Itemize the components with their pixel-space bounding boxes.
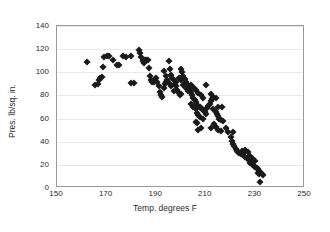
y-tick-label: 60 — [40, 113, 49, 122]
x-axis-title: Temp. degrees F — [0, 203, 330, 213]
gridline — [57, 26, 303, 27]
gridline — [57, 49, 303, 50]
x-tick-mark — [57, 186, 58, 187]
data-point — [165, 57, 172, 64]
x-tick-label: 230 — [248, 189, 261, 198]
y-axis-title: Pres. lb/sq. in. — [7, 66, 17, 156]
data-point — [202, 81, 209, 88]
gridline — [57, 119, 303, 120]
data-point — [145, 64, 152, 71]
y-tick-label: 100 — [36, 67, 49, 76]
y-tick-mark — [56, 165, 57, 166]
y-tick-mark — [56, 49, 57, 50]
y-tick-label: 20 — [40, 159, 49, 168]
x-tick-label: 150 — [49, 189, 62, 198]
data-point — [259, 172, 266, 179]
data-point — [257, 179, 264, 186]
scatter-chart-figure: 020406080100120140 Pres. lb/sq. in. 1501… — [0, 0, 330, 232]
y-tick-mark — [56, 119, 57, 120]
data-point — [218, 103, 225, 110]
gridline — [57, 142, 303, 143]
y-tick-label: 80 — [40, 90, 49, 99]
x-tick-label: 250 — [297, 189, 310, 198]
data-point — [128, 52, 135, 59]
data-point — [99, 63, 106, 70]
gridline — [57, 165, 303, 166]
x-tick-mark — [206, 186, 207, 187]
plot-area — [56, 25, 304, 187]
y-tick-label: 140 — [36, 21, 49, 30]
x-tick-mark — [107, 186, 108, 187]
x-tick-mark — [156, 186, 157, 187]
x-tick-label: 210 — [198, 189, 211, 198]
x-tick-label: 170 — [99, 189, 112, 198]
x-axis-tick-labels: 150170190210230250 — [0, 189, 330, 203]
x-tick-label: 190 — [149, 189, 162, 198]
x-tick-mark — [255, 186, 256, 187]
y-tick-mark — [56, 26, 57, 27]
y-tick-mark — [56, 95, 57, 96]
y-tick-mark — [56, 142, 57, 143]
y-tick-mark — [56, 72, 57, 73]
y-tick-label: 40 — [40, 136, 49, 145]
data-point — [83, 58, 90, 65]
y-tick-label: 120 — [36, 44, 49, 53]
data-point — [159, 93, 166, 100]
